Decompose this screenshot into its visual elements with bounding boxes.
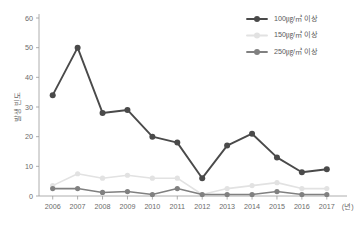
data-point bbox=[100, 110, 106, 116]
data-point bbox=[149, 134, 155, 140]
y-tick-label: 60 bbox=[25, 14, 33, 23]
data-point bbox=[274, 180, 279, 185]
y-tick-label: 40 bbox=[25, 73, 33, 82]
data-point bbox=[125, 173, 130, 178]
data-point bbox=[299, 192, 304, 197]
data-point bbox=[324, 192, 329, 197]
data-point bbox=[174, 140, 180, 146]
data-point bbox=[150, 176, 155, 181]
data-point bbox=[50, 92, 56, 98]
legend-label: 250㎍/㎥ 이상 bbox=[274, 47, 318, 57]
x-tick-label: 2007 bbox=[70, 202, 86, 211]
data-point bbox=[224, 143, 230, 149]
y-tick-label: 30 bbox=[25, 103, 33, 112]
legend-item[interactable]: 150㎍/㎥ 이상 bbox=[247, 30, 318, 40]
legend-swatch-marker bbox=[254, 16, 260, 22]
series-group bbox=[50, 186, 329, 197]
y-axis-title: 발생 빈도 bbox=[13, 92, 22, 122]
x-tick-label: 2016 bbox=[294, 202, 310, 211]
x-tick-label: 2012 bbox=[194, 202, 210, 211]
data-point bbox=[274, 189, 279, 194]
data-point bbox=[50, 186, 55, 191]
y-tick-label: 20 bbox=[25, 132, 33, 141]
data-point bbox=[200, 192, 205, 197]
x-axis-unit-label: (년) bbox=[342, 202, 354, 211]
data-point bbox=[324, 186, 329, 191]
data-point bbox=[124, 107, 130, 113]
legend-label: 100㎍/㎥ 이상 bbox=[274, 14, 318, 24]
legend-swatch-marker bbox=[254, 49, 260, 55]
x-tick-label: 2010 bbox=[144, 202, 160, 211]
y-tick-label: 50 bbox=[25, 43, 33, 52]
data-point bbox=[75, 186, 80, 191]
data-point bbox=[75, 171, 80, 176]
x-tick-label: 2011 bbox=[170, 202, 185, 211]
series-line bbox=[53, 189, 327, 195]
data-point bbox=[175, 176, 180, 181]
data-point bbox=[100, 176, 105, 181]
line-chart: 0102030405060200620072008200920102011201… bbox=[0, 0, 361, 227]
x-tick-label: 2017 bbox=[319, 202, 335, 211]
legend-item[interactable]: 100㎍/㎥ 이상 bbox=[247, 14, 318, 24]
data-point bbox=[249, 192, 254, 197]
data-point bbox=[249, 183, 254, 188]
x-tick-label: 2014 bbox=[244, 202, 260, 211]
data-point bbox=[125, 189, 130, 194]
series-line bbox=[53, 48, 327, 179]
x-tick-label: 2008 bbox=[95, 202, 111, 211]
data-point bbox=[324, 166, 330, 172]
legend: 100㎍/㎥ 이상150㎍/㎥ 이상250㎍/㎥ 이상 bbox=[247, 14, 318, 57]
series-group bbox=[50, 45, 330, 182]
y-tick-label: 10 bbox=[25, 162, 33, 171]
data-point bbox=[274, 154, 280, 160]
chart-container: 0102030405060200620072008200920102011201… bbox=[0, 0, 361, 227]
x-tick-label: 2009 bbox=[119, 202, 135, 211]
legend-swatch-marker bbox=[254, 33, 260, 39]
data-point bbox=[75, 45, 81, 51]
legend-item[interactable]: 250㎍/㎥ 이상 bbox=[247, 47, 318, 57]
data-point bbox=[249, 131, 255, 137]
data-point bbox=[225, 192, 230, 197]
x-tick-label: 2006 bbox=[45, 202, 61, 211]
data-point bbox=[199, 175, 205, 181]
data-point bbox=[100, 190, 105, 195]
data-point bbox=[299, 186, 304, 191]
x-tick-label: 2013 bbox=[219, 202, 235, 211]
data-point bbox=[150, 192, 155, 197]
data-point bbox=[299, 169, 305, 175]
data-point bbox=[175, 186, 180, 191]
data-point bbox=[225, 186, 230, 191]
x-tick-label: 2015 bbox=[269, 202, 285, 211]
y-tick-label: 0 bbox=[29, 192, 33, 201]
legend-label: 150㎍/㎥ 이상 bbox=[274, 30, 318, 40]
